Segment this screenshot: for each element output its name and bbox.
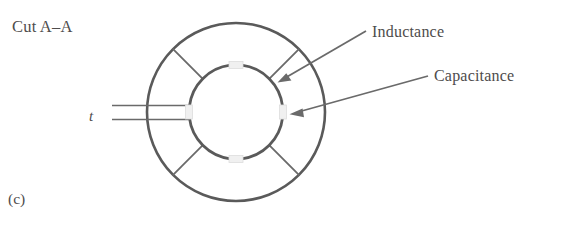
thickness-spoke	[112, 106, 190, 120]
spoke-upper-right	[269, 49, 299, 79]
capacitive-gap-top	[229, 62, 243, 69]
inductance-annotation-label: Inductance	[372, 24, 444, 40]
capacitance-arrowhead	[290, 109, 305, 118]
capacitance-leader	[298, 76, 428, 112]
capacitive-gap-right	[280, 105, 287, 119]
inductance-leader-line	[285, 31, 366, 78]
inner-ring	[189, 65, 282, 159]
inductance-leader	[285, 31, 366, 78]
spoke-lower-right	[269, 145, 299, 175]
cut-section-label: Cut A–A	[12, 19, 73, 36]
spoke-upper-left	[173, 49, 203, 79]
thickness-dimension-label: t	[89, 109, 93, 124]
figure-cut-aa: Cut A–A t Inductance Capacitance (c)	[0, 0, 562, 235]
capacitive-gap-left	[186, 105, 193, 119]
capacitance-leader-line	[298, 76, 428, 112]
spoke-lower-left	[173, 145, 203, 175]
capacitive-gap-bottom	[229, 156, 243, 163]
capacitance-annotation-label: Capacitance	[434, 68, 514, 84]
toroid-cross-section-diagram	[0, 0, 562, 235]
figure-caption: (c)	[8, 191, 25, 207]
